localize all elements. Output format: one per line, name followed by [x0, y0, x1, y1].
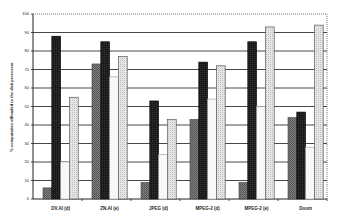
bar-series-1	[288, 118, 297, 199]
x-category-label: ZN.AI (e)	[100, 206, 119, 211]
y-tick-label: 40	[25, 122, 30, 127]
bar-series-3	[61, 162, 70, 199]
x-category-label: MPEG-2 (d)	[195, 206, 220, 211]
bar-series-1	[190, 119, 199, 199]
bar-series-4	[167, 119, 176, 199]
bar-series-2	[52, 36, 61, 199]
bar-series-2	[150, 101, 159, 199]
bar-series-4	[118, 57, 127, 199]
bar-series-2	[248, 42, 257, 199]
y-tick-label: 10	[25, 178, 30, 183]
y-tick-label: 80	[25, 48, 30, 53]
bar-series-1	[141, 182, 150, 199]
y-tick-label: 90	[25, 30, 30, 35]
y-tick-label: 50	[25, 104, 30, 109]
x-category-label: Doom	[299, 206, 312, 211]
y-tick-label: 60	[25, 85, 30, 90]
bar-series-3	[257, 107, 266, 200]
bar-series-4	[69, 97, 78, 199]
y-tick-label: 100	[22, 11, 29, 16]
bar-series-2	[297, 112, 306, 199]
bar-chart: 0102030405060708090100 DV.AI (d)ZN.AI (e…	[0, 0, 342, 221]
y-axis-title: % computation offloaded to the disk proc…	[9, 62, 14, 152]
y-tick-label: 0	[27, 196, 30, 201]
bar-series-4	[314, 25, 323, 199]
bar-series-3	[110, 77, 119, 199]
bar-series-2	[199, 62, 208, 199]
bar-series-1	[92, 64, 101, 199]
y-tick-label: 70	[25, 67, 30, 72]
y-tick-label: 20	[25, 159, 30, 164]
y-tick-label: 30	[25, 141, 30, 146]
x-category-label: DV.AI (d)	[51, 206, 70, 211]
y-axis: 0102030405060708090100	[22, 11, 33, 201]
bar-series-2	[101, 42, 110, 199]
bar-series-3	[159, 155, 168, 199]
bar-series-3	[208, 99, 217, 199]
x-category-label: MPEG-2 (e)	[245, 206, 270, 211]
x-category-label: JPEG (d)	[149, 206, 169, 211]
x-axis: DV.AI (d)ZN.AI (e)JPEG (d)MPEG-2 (d)MPEG…	[51, 199, 327, 211]
bar-series-1	[43, 188, 52, 199]
bar-series-4	[265, 27, 274, 199]
bar-series-4	[216, 66, 225, 199]
bar-series-1	[239, 182, 248, 199]
bar-series-3	[306, 147, 315, 199]
